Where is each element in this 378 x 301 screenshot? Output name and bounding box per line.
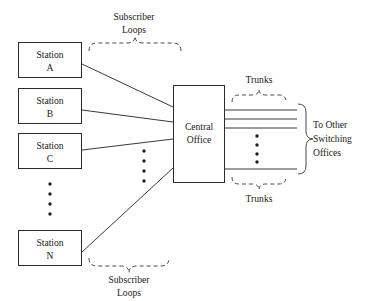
subscriber-loops-top-brace: [89, 36, 181, 51]
trunks-bottom-brace: [232, 177, 286, 190]
subscriber-loops-top-line1: Subscriber: [113, 11, 155, 22]
trunk-lines: [224, 110, 297, 169]
station-node-b[interactable]: Station B: [19, 89, 82, 124]
loop-line-station-b: [82, 110, 173, 122]
station-n-label-line1: Station: [36, 237, 63, 248]
central-office-node[interactable]: Central Office: [174, 86, 225, 183]
station-b-label-line1: Station: [36, 95, 63, 106]
network-diagram: Station A Station B Station C Station N: [0, 0, 378, 301]
station-node-c[interactable]: Station C: [19, 134, 82, 169]
trunks-ellipsis-icon: [255, 134, 258, 163]
stations-ellipsis-icon: [48, 182, 51, 215]
station-c-label-line1: Station: [36, 140, 63, 151]
subscriber-loop-lines: [82, 64, 173, 252]
subscriber-loops-bottom-line1: Subscriber: [108, 274, 150, 285]
trunks-top-label: Trunks: [246, 74, 273, 85]
station-a-label-line2: A: [47, 62, 54, 73]
subscriber-loops-bottom-brace: [89, 258, 169, 273]
loop-line-station-a: [82, 64, 173, 107]
station-node-a[interactable]: Station A: [19, 43, 82, 78]
trunks-top-brace: [232, 89, 286, 102]
station-c-label-line2: C: [47, 153, 53, 164]
loops-ellipsis-icon: [142, 149, 145, 182]
central-office-label-line1: Central: [185, 121, 214, 132]
central-office-label-line2: Office: [187, 134, 211, 145]
subscriber-loops-top-label: Subscriber Loops: [113, 11, 155, 35]
station-n-label-line2: N: [47, 250, 54, 261]
station-a-label-line1: Station: [36, 49, 63, 60]
subscriber-loops-bottom-line2: Loops: [117, 287, 141, 298]
loop-line-station-n: [82, 168, 173, 252]
subscriber-loops-bottom-label: Subscriber Loops: [108, 274, 150, 298]
subscriber-loops-top-line2: Loops: [122, 24, 146, 35]
station-node-n[interactable]: Station N: [19, 231, 82, 266]
to-other-line1: To Other: [313, 119, 348, 130]
to-other-line3: Offices: [313, 147, 341, 158]
loop-line-station-c: [82, 139, 173, 150]
diagram-canvas: Station A Station B Station C Station N: [0, 0, 378, 301]
trunks-bottom-label: Trunks: [246, 193, 273, 204]
to-other-line2: Switching: [313, 133, 352, 144]
to-other-switching-offices-label: To Other Switching Offices: [313, 119, 352, 158]
station-b-label-line2: B: [47, 108, 53, 119]
switching-offices-brace: [298, 104, 313, 174]
